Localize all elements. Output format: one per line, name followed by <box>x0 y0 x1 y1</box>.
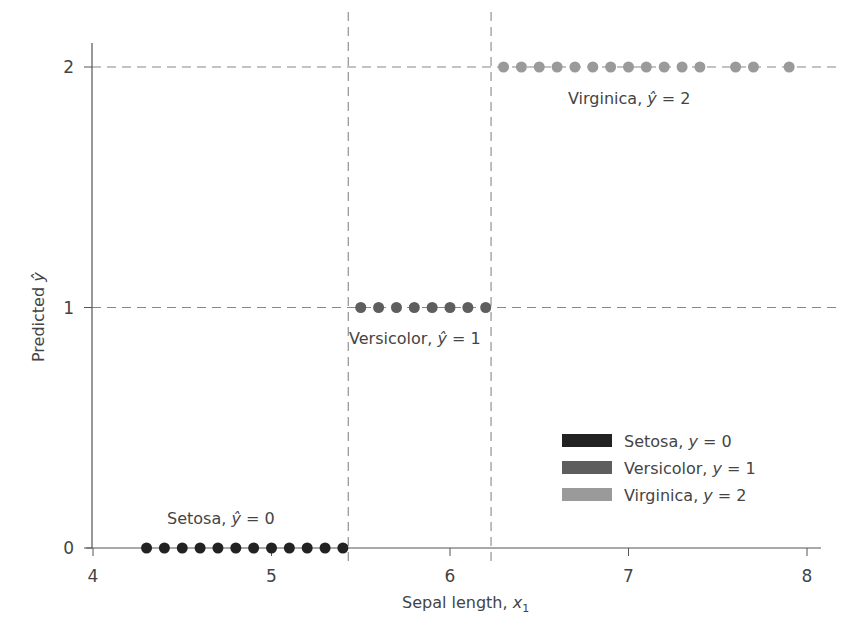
x-axis-label: Sepal length, x1 <box>402 593 529 615</box>
data-point <box>641 62 652 73</box>
data-point <box>694 62 705 73</box>
data-point <box>337 543 348 554</box>
x-tick-label: 8 <box>802 566 813 586</box>
data-point <box>141 543 152 554</box>
data-point <box>569 62 580 73</box>
data-point <box>159 543 170 554</box>
data-point <box>195 543 206 554</box>
x-tick-label: 5 <box>266 566 277 586</box>
x-tick-label: 7 <box>623 566 634 586</box>
data-point <box>462 302 473 313</box>
legend: Setosa, y = 0 Versicolor, y = 1 Virginic… <box>562 432 756 505</box>
data-point <box>730 62 741 73</box>
data-point <box>748 62 759 73</box>
data-point <box>677 62 688 73</box>
data-point <box>445 302 456 313</box>
data-point <box>230 543 241 554</box>
y-tick-label: 0 <box>63 538 74 558</box>
data-point <box>534 62 545 73</box>
data-point <box>480 302 491 313</box>
legend-label-virginica: Virginica, y = 2 <box>624 486 747 505</box>
data-point <box>391 302 402 313</box>
data-point <box>177 543 188 554</box>
annotation-setosa: Setosa, ŷ = 0 <box>167 509 275 528</box>
data-point <box>516 62 527 73</box>
data-point <box>248 543 259 554</box>
data-point <box>266 543 277 554</box>
data-point <box>302 543 313 554</box>
data-point <box>587 62 598 73</box>
annotation-virginica: Virginica, ŷ = 2 <box>568 89 691 108</box>
data-point <box>605 62 616 73</box>
y-axis-label: Predicted ŷ <box>29 272 48 362</box>
legend-swatch-setosa <box>562 434 612 447</box>
data-point <box>409 302 420 313</box>
data-point <box>355 302 366 313</box>
annotation-versicolor: Versicolor, ŷ = 1 <box>349 329 481 348</box>
data-point <box>320 543 331 554</box>
data-point <box>498 62 509 73</box>
x-tick-label: 4 <box>88 566 99 586</box>
legend-label-versicolor: Versicolor, y = 1 <box>624 459 756 478</box>
y-tick-label: 1 <box>63 298 74 318</box>
chart: 45678012 Setosa, ŷ = 0 Versicolor, ŷ = 1… <box>0 0 863 633</box>
data-point <box>784 62 795 73</box>
legend-label-setosa: Setosa, y = 0 <box>624 432 732 451</box>
gridlines <box>92 12 836 562</box>
x-tick-label: 6 <box>445 566 456 586</box>
legend-swatch-virginica <box>562 488 612 501</box>
data-point <box>552 62 563 73</box>
data-point <box>659 62 670 73</box>
data-point <box>427 302 438 313</box>
y-tick-label: 2 <box>63 57 74 77</box>
data-point <box>284 543 295 554</box>
data-point <box>623 62 634 73</box>
legend-swatch-versicolor <box>562 461 612 474</box>
data-point <box>373 302 384 313</box>
ticks: 45678012 <box>63 57 812 586</box>
data-point <box>212 543 223 554</box>
